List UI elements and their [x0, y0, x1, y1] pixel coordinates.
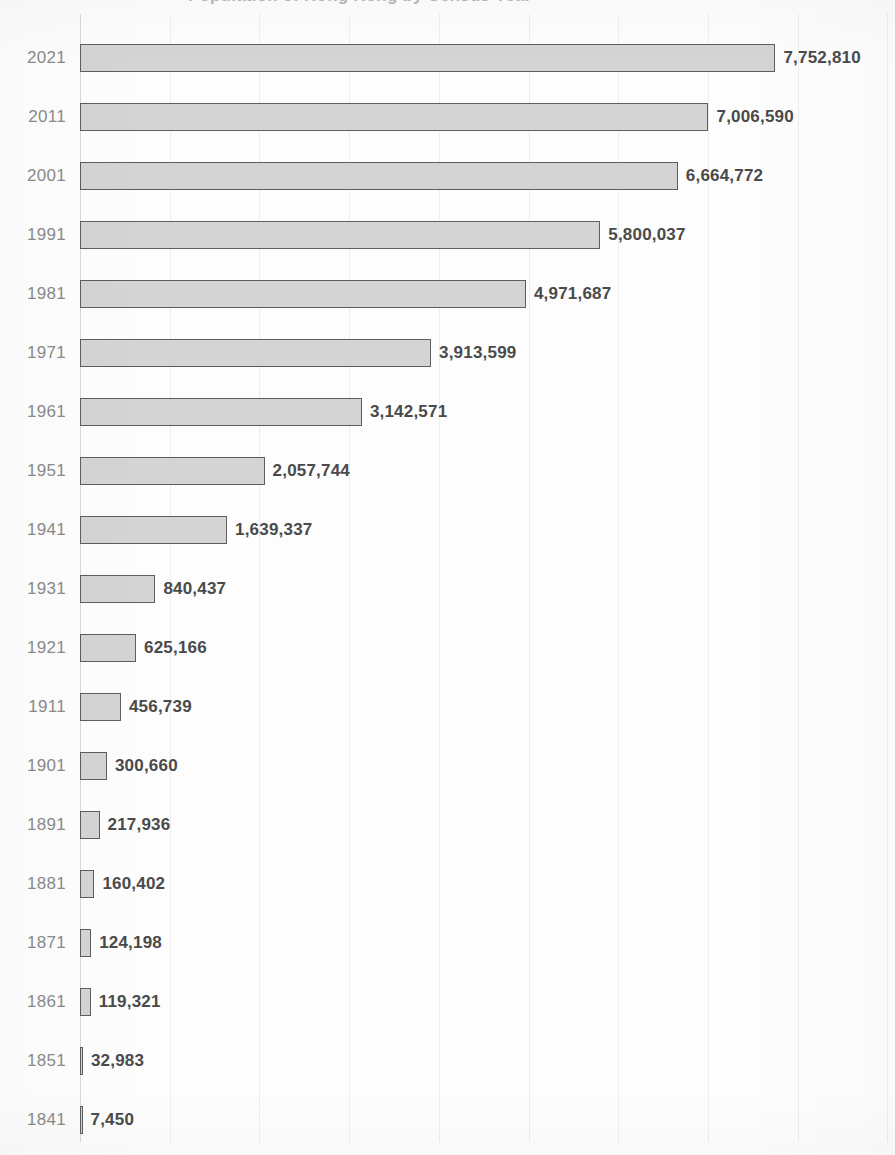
bar-row: 1861119,321	[0, 973, 895, 1032]
bar-row: 19713,913,599	[0, 324, 895, 383]
category-label: 1881	[0, 874, 66, 894]
bar-value-label: 4,971,687	[534, 284, 611, 304]
bar	[80, 1047, 83, 1075]
bar	[80, 988, 91, 1016]
category-label: 1951	[0, 461, 66, 481]
chart-title-cropped: Population of Hong Kong by Census Year	[0, 0, 895, 11]
category-label: 1901	[0, 756, 66, 776]
bar-value-label: 7,450	[91, 1110, 135, 1130]
bar-row: 1921625,166	[0, 619, 895, 678]
bar-value-label: 840,437	[163, 579, 226, 599]
category-label: 1911	[0, 697, 66, 717]
bar-row: 20217,752,810	[0, 29, 895, 88]
bar-row: 1871124,198	[0, 914, 895, 973]
bar-value-label: 6,664,772	[686, 166, 763, 186]
bar	[80, 811, 100, 839]
bar-row: 19512,057,744	[0, 442, 895, 501]
bar-value-label: 5,800,037	[608, 225, 685, 245]
bar	[80, 634, 136, 662]
category-label: 2011	[0, 107, 66, 127]
bar-row: 1891217,936	[0, 796, 895, 855]
bar-chart-plot-area: 20217,752,81020117,006,59020016,664,7721…	[0, 0, 895, 1155]
category-label: 1931	[0, 579, 66, 599]
bar	[80, 752, 107, 780]
bar-value-label: 3,142,571	[370, 402, 447, 422]
bar	[80, 162, 678, 190]
bar-value-label: 7,752,810	[783, 48, 860, 68]
bar	[80, 339, 431, 367]
category-label: 1871	[0, 933, 66, 953]
chart-page: Population of Hong Kong by Census Year 2…	[0, 0, 895, 1155]
category-label: 1851	[0, 1051, 66, 1071]
bar	[80, 280, 526, 308]
category-label: 2021	[0, 48, 66, 68]
bar-row: 185132,983	[0, 1032, 895, 1091]
bar-row: 19613,142,571	[0, 383, 895, 442]
bar-row: 1881160,402	[0, 855, 895, 914]
category-label: 1961	[0, 402, 66, 422]
bar	[80, 516, 227, 544]
chart-title-text: Population of Hong Kong by Census Year	[188, 0, 532, 6]
category-label: 1861	[0, 992, 66, 1012]
bar	[80, 398, 362, 426]
bar	[80, 575, 155, 603]
bar-value-label: 300,660	[115, 756, 178, 776]
category-label: 1941	[0, 520, 66, 540]
bar	[80, 929, 91, 957]
category-label: 1971	[0, 343, 66, 363]
category-label: 1991	[0, 225, 66, 245]
bar	[80, 103, 708, 131]
bar-value-label: 124,198	[99, 933, 162, 953]
bar-value-label: 625,166	[144, 638, 207, 658]
bar	[80, 457, 265, 485]
bar-value-label: 1,639,337	[235, 520, 312, 540]
bar-value-label: 119,321	[99, 992, 161, 1012]
bar-value-label: 2,057,744	[273, 461, 350, 481]
bar-row: 19814,971,687	[0, 265, 895, 324]
bar	[80, 221, 600, 249]
bar-value-label: 32,983	[91, 1051, 144, 1071]
category-label: 1841	[0, 1110, 66, 1130]
bar-value-label: 217,936	[108, 815, 171, 835]
bar-value-label: 160,402	[102, 874, 165, 894]
bar-row: 1901300,660	[0, 737, 895, 796]
bar-row: 19411,639,337	[0, 501, 895, 560]
bar-row: 1931840,437	[0, 560, 895, 619]
bar-value-label: 3,913,599	[439, 343, 516, 363]
bar-value-label: 456,739	[129, 697, 192, 717]
bar-row: 20016,664,772	[0, 147, 895, 206]
bar-row: 19915,800,037	[0, 206, 895, 265]
bar	[80, 693, 121, 721]
category-label: 1891	[0, 815, 66, 835]
bar	[80, 44, 775, 72]
bar-row: 1911456,739	[0, 678, 895, 737]
category-label: 1921	[0, 638, 66, 658]
bar-value-label: 7,006,590	[716, 107, 793, 127]
bar-row: 20117,006,590	[0, 88, 895, 147]
bar-row: 18417,450	[0, 1091, 895, 1150]
category-label: 1981	[0, 284, 66, 304]
bar	[80, 870, 94, 898]
category-label: 2001	[0, 166, 66, 186]
bar	[80, 1106, 83, 1134]
